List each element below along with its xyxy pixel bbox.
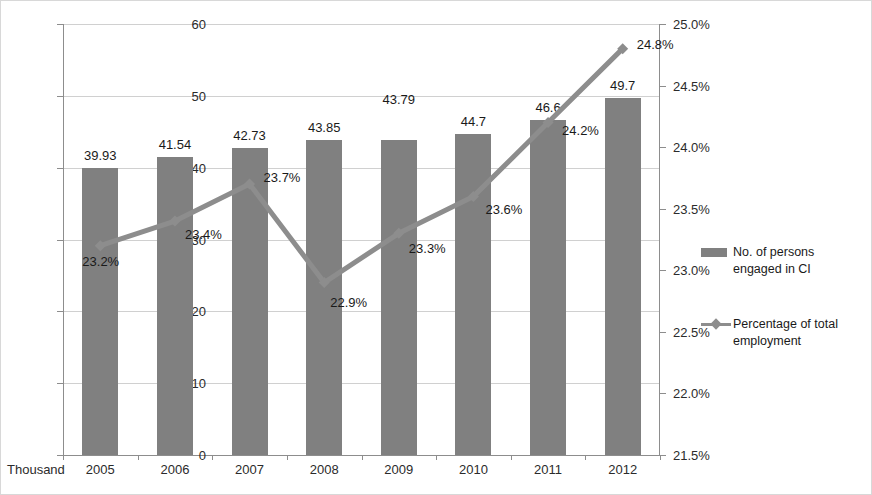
x-axis-tick xyxy=(362,455,363,460)
line-value-label: 23.4% xyxy=(185,227,222,242)
line-value-label: 23.7% xyxy=(264,170,301,185)
x-axis-tick xyxy=(660,455,661,460)
line-value-label: 24.2% xyxy=(562,123,599,138)
legend-label-bar-line2: engaged in CI xyxy=(733,261,866,278)
line-path xyxy=(100,49,622,283)
chart-container: 0102030405060 21.5%22.0%22.5%23.0%23.5%2… xyxy=(0,0,872,495)
line-marker-icon xyxy=(701,323,731,326)
y-axis-right-tick xyxy=(660,86,666,87)
y-axis-right-tick xyxy=(660,270,666,271)
y-axis-right-tick xyxy=(660,209,666,210)
y-axis-right-tick xyxy=(660,24,666,25)
y-axis-right-tick-label: 24.0% xyxy=(673,140,710,155)
line-series xyxy=(63,24,660,455)
x-axis-tick xyxy=(138,455,139,460)
y-axis-right-tick xyxy=(660,332,666,333)
x-axis-label: 2012 xyxy=(608,462,637,477)
legend-item-line: Percentage of total employment xyxy=(701,316,866,350)
line-value-label: 22.9% xyxy=(330,295,367,310)
y-axis-right-tick xyxy=(660,147,666,148)
x-axis-label: 2005 xyxy=(86,462,115,477)
x-axis-label: 2011 xyxy=(534,462,562,477)
y-axis-unit-label: Thousand xyxy=(7,462,65,477)
y-axis-right-tick xyxy=(660,393,666,394)
y-axis-right-tick-label: 25.0% xyxy=(673,17,710,32)
x-axis-tick xyxy=(287,455,288,460)
legend-item-bar: No. of persons engaged in CI xyxy=(701,244,866,278)
x-axis-tick xyxy=(511,455,512,460)
x-axis-tick xyxy=(585,455,586,460)
bar-swatch-icon xyxy=(701,248,727,257)
y-axis-right-tick-label: 22.0% xyxy=(673,386,710,401)
x-axis-tick xyxy=(63,455,64,460)
legend-label-line-line1: Percentage of total xyxy=(733,316,866,333)
legend-label-bar-line1: No. of persons xyxy=(733,244,866,261)
line-value-label: 23.3% xyxy=(409,241,446,256)
y-axis-right-tick-label: 21.5% xyxy=(673,448,710,463)
x-axis-label: 2010 xyxy=(459,462,488,477)
x-axis-label: 2008 xyxy=(310,462,339,477)
x-axis-tick xyxy=(436,455,437,460)
line-value-label: 23.2% xyxy=(82,254,119,269)
x-axis-label: 2007 xyxy=(235,462,264,477)
x-axis-label: 2009 xyxy=(384,462,413,477)
line-value-label: 24.8% xyxy=(637,37,674,52)
x-axis-tick xyxy=(212,455,213,460)
y-axis-right-tick-label: 23.5% xyxy=(673,201,710,216)
chart-legend: No. of persons engaged in CI Percentage … xyxy=(701,244,866,388)
x-axis-label: 2006 xyxy=(160,462,189,477)
line-value-label: 23.6% xyxy=(485,202,522,217)
y-axis-right-tick-label: 24.5% xyxy=(673,78,710,93)
legend-label-line-line2: employment xyxy=(733,333,866,350)
